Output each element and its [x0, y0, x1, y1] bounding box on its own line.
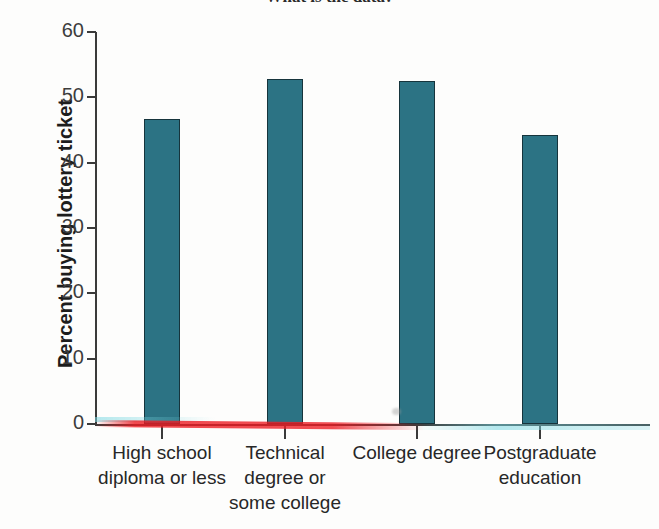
y-tick-mark — [87, 423, 96, 425]
y-tick-label: 50 — [40, 84, 84, 107]
x-category-label-line: education — [455, 465, 625, 490]
y-tick-mark — [87, 358, 96, 360]
y-tick-mark — [87, 96, 96, 98]
bar-chart-figure: What is the data? Percent buying lottery… — [0, 0, 659, 529]
x-category-label-line: some college — [204, 490, 366, 515]
y-tick-label: 10 — [40, 346, 84, 369]
clipped-title-region: What is the data? — [0, 0, 659, 11]
x-category-label-line: Postgraduate — [455, 440, 625, 465]
y-tick-mark — [87, 162, 96, 164]
x-tick-mark — [539, 426, 541, 439]
x-category-label-line: degree or — [204, 465, 366, 490]
x-tick-mark — [416, 426, 418, 439]
y-tick-label: 30 — [40, 215, 84, 238]
y-tick-label: 20 — [40, 280, 84, 303]
bar — [144, 119, 180, 424]
x-tick-mark — [284, 426, 286, 439]
bar — [522, 135, 558, 424]
y-tick-mark — [87, 31, 96, 33]
x-tick-mark — [161, 426, 163, 439]
y-tick-label: 0 — [40, 411, 84, 434]
bar — [399, 81, 435, 424]
x-category-label: Postgraduateeducation — [455, 440, 625, 490]
y-tick-mark — [87, 227, 96, 229]
page-title: What is the data? — [0, 0, 659, 7]
x-axis-line — [95, 424, 650, 426]
y-tick-mark — [87, 292, 96, 294]
bar — [267, 79, 303, 424]
y-tick-label: 60 — [40, 19, 84, 42]
y-tick-label: 40 — [40, 150, 84, 173]
